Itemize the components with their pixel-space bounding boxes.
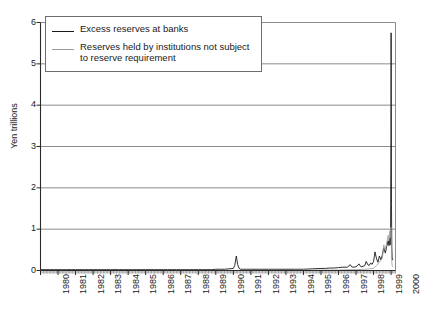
x-axis-tick-label: 1985 (148, 274, 158, 314)
legend-item-label: Reserves held by institutions not subjec… (80, 41, 260, 63)
x-axis-tick-label: 1993 (288, 274, 298, 314)
x-axis-tick-label: 1988 (201, 274, 211, 314)
x-axis-tick-label: 1980 (61, 274, 71, 314)
legend-item-excess-reserves: Excess reserves at banks (52, 23, 188, 37)
x-axis-tick-label: 1991 (253, 274, 263, 314)
x-axis-tick-label: 1987 (183, 274, 193, 314)
x-axis-tick-label: 1997 (359, 274, 369, 314)
legend-line-swatch-icon (52, 27, 74, 37)
x-axis-tick-label: 1996 (341, 274, 351, 314)
x-axis-tick-label: 1981 (78, 274, 88, 314)
x-axis-tick-label: 1990 (236, 274, 246, 314)
x-axis-tick-label: 2000 (411, 274, 421, 314)
legend-item-label: Excess reserves at banks (80, 23, 188, 34)
x-axis-tick-label: 1995 (323, 274, 333, 314)
x-axis-tick-label: 1999 (394, 274, 404, 314)
x-axis-tick-label: 1982 (96, 274, 106, 314)
chart-legend: Excess reserves at banks Reserves held b… (45, 16, 262, 72)
chart-container: Yen trillions 0123456 198019811982198319… (0, 0, 424, 320)
x-axis-tick-label: 1989 (218, 274, 228, 314)
x-axis-tick-label: 1983 (113, 274, 123, 314)
legend-item-non-subject-institutions: Reserves held by institutions not subjec… (52, 41, 260, 63)
x-axis-tick-label: 1986 (166, 274, 176, 314)
x-axis-tick-label: 1992 (271, 274, 281, 314)
x-axis-tick-label: 1998 (376, 274, 386, 314)
legend-line-swatch-icon (52, 45, 74, 55)
x-axis-tick-label: 1994 (306, 274, 316, 314)
x-axis-tick-label: 1984 (131, 274, 141, 314)
